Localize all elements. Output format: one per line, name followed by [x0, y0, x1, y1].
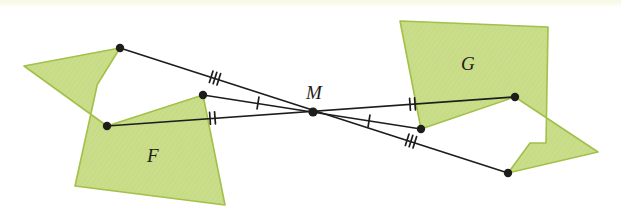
vertex-dot-f-middle: [199, 91, 207, 99]
shape-g-polygon: [400, 21, 598, 173]
vertex-dot-g-right: [511, 93, 519, 101]
tick-mark-single-left: [257, 97, 259, 109]
geometry-figure: [0, 0, 621, 216]
shape-g-label: G: [461, 54, 475, 73]
vertex-dot-f-bottom: [103, 122, 111, 130]
center-point-label: M: [306, 83, 322, 102]
diagram-canvas: F G M: [0, 0, 621, 216]
vertex-dot-center-m: [308, 107, 317, 116]
tick-mark-triple-left: [209, 71, 220, 85]
vertex-dot-g-bottom: [504, 169, 512, 177]
vertex-dot-g-middle: [417, 125, 425, 133]
tick-mark-triple-right: [405, 134, 416, 148]
tick-mark-single-right: [368, 115, 370, 127]
vertex-dot-f-top: [116, 44, 124, 52]
shape-f-label: F: [147, 146, 159, 165]
